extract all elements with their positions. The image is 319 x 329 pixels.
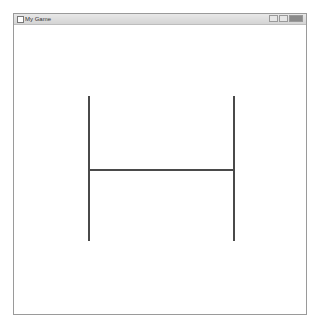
maximize-button[interactable] xyxy=(279,15,288,22)
minimize-button[interactable] xyxy=(269,15,278,22)
window-controls xyxy=(269,15,303,22)
app-icon xyxy=(17,16,24,23)
title-bar[interactable]: My Game xyxy=(14,14,306,25)
close-button[interactable] xyxy=(289,15,303,22)
crossbar-line xyxy=(88,169,234,171)
window-title: My Game xyxy=(25,14,51,24)
game-window: My Game xyxy=(13,13,307,315)
